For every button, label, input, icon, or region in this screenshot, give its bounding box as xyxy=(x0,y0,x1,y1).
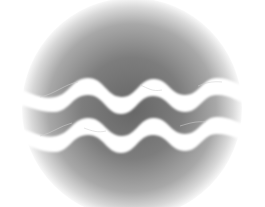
water-waves-icon xyxy=(0,0,265,207)
icon-canvas: water-waves-circle xyxy=(0,0,265,207)
